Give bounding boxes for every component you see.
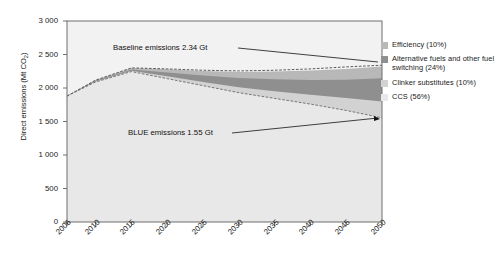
legend-item[interactable]: Efficiency (10%) xyxy=(381,40,495,49)
emissions-area-chart: Direct emissions (Mt CO2) 3 0002 5002 00… xyxy=(0,0,495,262)
y-axis-tick-label: 3 000 xyxy=(24,16,58,25)
y-axis-tick-label: 1 000 xyxy=(24,150,58,159)
legend-item[interactable]: Clinker substitutes (10%) xyxy=(381,78,495,87)
y-axis-title: Direct emissions (Mt CO2) xyxy=(19,22,28,172)
legend-swatch-icon xyxy=(381,56,388,63)
y-axis-tick-label: 500 xyxy=(24,184,58,193)
legend-item[interactable]: Alternative fuels and other fuel switchi… xyxy=(381,54,495,72)
x-axis-ticks xyxy=(67,222,382,226)
legend-item-label: Clinker substitutes (10%) xyxy=(392,78,476,87)
y-axis-ticks xyxy=(63,21,67,222)
y-axis-title-text: Direct emissions (Mt CO xyxy=(19,58,28,140)
y-axis-tick-label: 0 xyxy=(24,217,58,226)
legend-item-label: Alternative fuels and other fuel switchi… xyxy=(392,54,495,72)
legend-swatch-icon xyxy=(381,42,388,49)
legend-swatch-icon xyxy=(381,80,388,87)
legend-item[interactable]: CCS (56%) xyxy=(381,92,495,101)
baseline-annotation-label: Baseline emissions 2.34 Gt xyxy=(113,43,207,52)
legend-item-label: CCS (56%) xyxy=(392,92,430,101)
y-axis-tick-label: 1 500 xyxy=(24,117,58,126)
y-axis-tick-label: 2 500 xyxy=(24,50,58,59)
legend-item-label: Efficiency (10%) xyxy=(392,40,446,49)
chart-legend: Efficiency (10%)Alternative fuels and ot… xyxy=(381,40,495,106)
y-axis-tick-label: 2 000 xyxy=(24,83,58,92)
blue-annotation-label: BLUE emissions 1.55 Gt xyxy=(128,128,213,137)
legend-swatch-icon xyxy=(381,94,388,101)
